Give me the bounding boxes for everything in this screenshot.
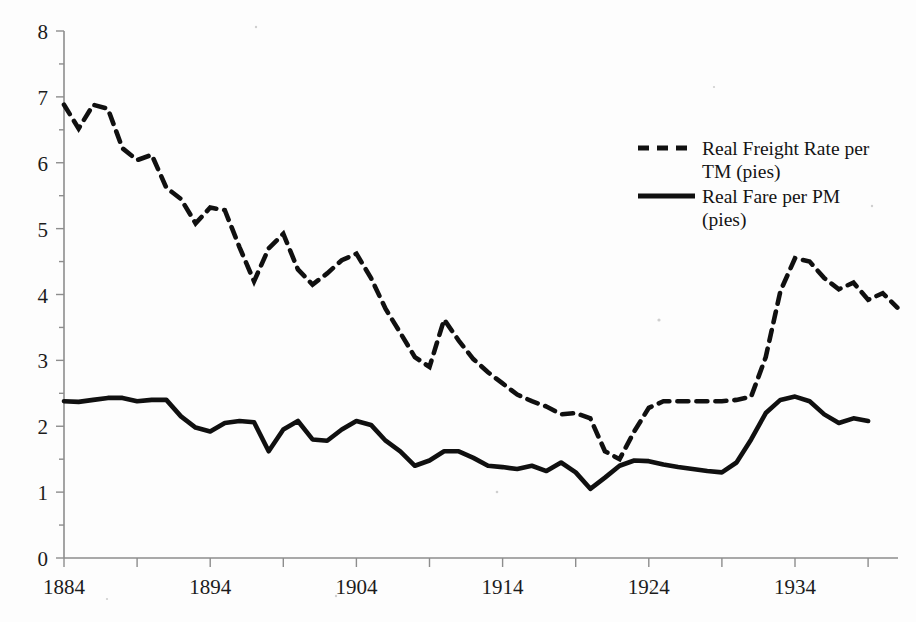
- y-axis-tick-label: 7: [38, 86, 49, 110]
- y-axis-tick-label: 8: [38, 20, 49, 44]
- y-axis-tick-label: 1: [38, 481, 49, 505]
- x-axis-tick-label: 1924: [628, 575, 671, 599]
- y-axis-tick-label: 6: [38, 152, 49, 176]
- y-axis-ticks: [56, 31, 64, 558]
- y-axis-tick-label: 0: [38, 547, 49, 571]
- y-axis-tick-labels: 012345678: [38, 20, 49, 571]
- scan-noise: [106, 26, 873, 600]
- legend-entry-fare: Real Fare per PM (pies): [638, 186, 840, 231]
- legend-label-freight-rate-line2: TM (pies): [702, 161, 781, 183]
- x-axis-tick-label: 1894: [189, 575, 232, 599]
- x-axis-tick-label: 1914: [482, 575, 525, 599]
- y-axis-tick-label: 2: [38, 415, 49, 439]
- x-axis-tick-label: 1884: [43, 575, 86, 599]
- chart-figure: 012345678 188418941904191419241934 Real …: [0, 0, 916, 622]
- x-axis-ticks: [64, 558, 868, 567]
- x-axis-tick-label: 1934: [774, 575, 817, 599]
- chart-legend: Real Freight Rate per TM (pies) Real Far…: [638, 138, 870, 231]
- x-axis-tick-labels: 188418941904191419241934: [43, 575, 817, 599]
- y-axis-tick-label: 4: [38, 284, 49, 308]
- chart-canvas: 012345678 188418941904191419241934 Real …: [0, 0, 916, 622]
- series-real-fare-line: [64, 397, 868, 489]
- y-axis-tick-label: 3: [38, 349, 49, 373]
- axes: [56, 31, 898, 567]
- legend-label-freight-rate-line1: Real Freight Rate per: [702, 138, 870, 159]
- x-axis-tick-label: 1904: [335, 575, 378, 599]
- legend-label-fare-line1: Real Fare per PM: [702, 186, 840, 207]
- legend-entry-freight-rate: Real Freight Rate per TM (pies): [638, 138, 870, 183]
- legend-label-fare-line2: (pies): [702, 209, 746, 231]
- y-axis-tick-label: 5: [38, 218, 49, 242]
